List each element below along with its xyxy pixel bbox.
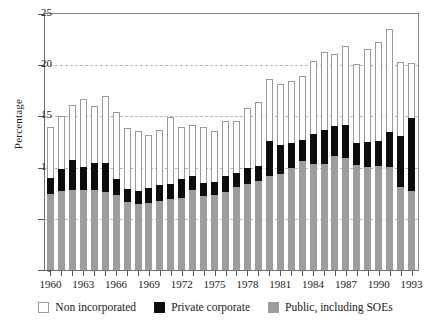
x-tick-mark (193, 271, 194, 276)
bar-segment-public (277, 174, 284, 270)
bar-segment-non-incorporated (353, 64, 360, 143)
bar-segment-public (299, 161, 306, 270)
bar-1972 (178, 127, 185, 270)
bar-segment-private-corporate (80, 167, 87, 191)
x-tick-mark (291, 271, 292, 276)
x-tick-mark (412, 271, 413, 276)
bar-segment-private-corporate (408, 118, 415, 191)
chart-root: Percentage 0510152025 196019631966196919… (0, 0, 431, 329)
bar-segment-private-corporate (277, 145, 284, 174)
bar-segment-non-incorporated (244, 108, 251, 167)
x-tick-mark (215, 271, 216, 276)
x-tick-mark (258, 271, 259, 276)
bar-segment-public (58, 191, 65, 270)
bar-1992 (397, 62, 404, 270)
bar-1982 (288, 81, 295, 270)
bar-1966 (113, 112, 120, 270)
bar-segment-private-corporate (91, 163, 98, 191)
bar-1991 (386, 29, 393, 270)
bar-segment-public (386, 167, 393, 270)
bar-segment-non-incorporated (211, 131, 218, 182)
bar-1970 (156, 130, 163, 270)
bar-segment-public (113, 195, 120, 270)
bar-segment-public (211, 195, 218, 270)
bar-segment-non-incorporated (222, 121, 229, 176)
bar-segment-private-corporate (135, 191, 142, 204)
bar-segment-public (408, 191, 415, 270)
bar-segment-non-incorporated (58, 116, 65, 168)
bar-segment-private-corporate (211, 182, 218, 195)
bar-segment-private-corporate (167, 184, 174, 199)
bar-segment-private-corporate (342, 125, 349, 159)
bar-1964 (91, 106, 98, 270)
x-tick-mark (313, 271, 314, 276)
bar-1963 (80, 99, 87, 270)
bar-1962 (69, 105, 76, 270)
bar-1976 (222, 121, 229, 270)
bar-segment-non-incorporated (310, 61, 317, 134)
bar-segment-public (244, 184, 251, 270)
bar-segment-public (375, 166, 382, 270)
legend-item-non-incorporated: Non incorporated (38, 301, 136, 313)
x-tick-mark (182, 271, 183, 276)
legend-item-public-soes: Public, including SOEs (268, 301, 393, 313)
bar-segment-non-incorporated (113, 112, 120, 179)
bar-segment-public (288, 168, 295, 270)
bar-segment-non-incorporated (91, 106, 98, 162)
bar-segment-non-incorporated (277, 84, 284, 145)
x-tick-mark (83, 271, 84, 276)
x-tick-mark (324, 271, 325, 276)
bar-segment-public (189, 190, 196, 270)
bar-1984 (310, 61, 317, 270)
bar-segment-private-corporate (244, 168, 251, 184)
bar-segment-public (200, 196, 207, 270)
bar-segment-non-incorporated (397, 62, 404, 136)
bar-segment-private-corporate (102, 163, 109, 193)
bar-1988 (353, 64, 360, 270)
bar-segment-non-incorporated (321, 52, 328, 130)
bar-1961 (58, 116, 65, 270)
bar-1985 (321, 52, 328, 270)
bar-segment-non-incorporated (80, 99, 87, 167)
bar-1987 (342, 46, 349, 270)
bar-segment-non-incorporated (124, 128, 131, 189)
bar-segment-public (310, 164, 317, 270)
bar-1967 (124, 128, 131, 270)
bar-segment-public (124, 202, 131, 270)
bar-segment-private-corporate (178, 179, 185, 198)
bar-1979 (255, 102, 262, 270)
bar-segment-non-incorporated (386, 29, 393, 131)
bar-segment-private-corporate (113, 179, 120, 195)
bar-segment-non-incorporated (255, 102, 262, 165)
bar-segment-private-corporate (266, 141, 273, 176)
x-tick-mark (204, 271, 205, 276)
bar-segment-non-incorporated (342, 46, 349, 125)
square-black-swatch-icon (154, 302, 165, 313)
x-tick-mark (357, 271, 358, 276)
bar-segment-private-corporate (124, 189, 131, 202)
bar-segment-private-corporate (321, 130, 328, 164)
x-tick-mark (390, 271, 391, 276)
bar-segment-private-corporate (222, 176, 229, 192)
bar-1986 (331, 54, 338, 270)
x-tick-mark (171, 271, 172, 276)
bar-segment-non-incorporated (102, 96, 109, 163)
bar-segment-private-corporate (255, 166, 262, 181)
bar-segment-non-incorporated (178, 127, 185, 179)
x-tick-mark (269, 271, 270, 276)
bar-1990 (375, 42, 382, 270)
bar-segment-public (80, 190, 87, 270)
bar-1977 (233, 121, 240, 270)
square-outline-swatch-icon (38, 302, 49, 313)
x-tick-mark (401, 271, 402, 276)
bar-segment-private-corporate (386, 132, 393, 167)
bar-segment-public (364, 167, 371, 270)
x-tick-mark (149, 271, 150, 276)
bar-1975 (211, 131, 218, 270)
bar-segment-public (222, 192, 229, 270)
x-tick-label: 1993 (392, 278, 431, 290)
bar-segment-public (102, 192, 109, 270)
x-tick-mark (247, 271, 248, 276)
bar-segment-non-incorporated (200, 127, 207, 183)
bar-segment-non-incorporated (331, 54, 338, 126)
